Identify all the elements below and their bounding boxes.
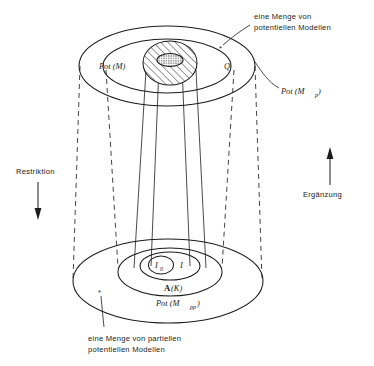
- label-pot-mpp-close: ): [196, 299, 200, 308]
- annotation-partial-models-line2: potentiellen Modellen: [88, 345, 165, 354]
- label-i0-subscript: 0: [160, 266, 163, 272]
- label-pot-mp-close: ): [317, 87, 321, 96]
- core-region: [157, 54, 183, 67]
- label-a-k: A (K): [164, 283, 182, 293]
- label-pot-mp-main: Pot (M: [280, 87, 306, 96]
- label-pot-mpp-subscript: pp: [189, 304, 196, 310]
- marker-asterisk-lower: *: [98, 288, 101, 297]
- marker-asterisk-upper: *: [219, 44, 222, 53]
- annotation-potential-models-line1: eine Menge von: [254, 12, 312, 21]
- label-q: Q: [224, 62, 230, 71]
- annotation-potential-models-line2: potentiellen Modellen: [254, 23, 331, 32]
- label-pot-m: Pot (M): [98, 62, 125, 71]
- set-theory-diagram: Pot (M) Q Pot (M p ) eine Menge von pote…: [0, 0, 374, 366]
- annotation-partial-models-line1: eine Menge von partiellen: [88, 334, 181, 343]
- label-pot-mpp-main: Pot (M: [155, 299, 181, 308]
- label-ergaenzung: Ergänzung: [303, 190, 342, 199]
- label-a-k-rest: (K): [171, 284, 182, 293]
- label-a-k-letter: A: [164, 283, 171, 293]
- label-restriktion: Restriktion: [16, 167, 55, 176]
